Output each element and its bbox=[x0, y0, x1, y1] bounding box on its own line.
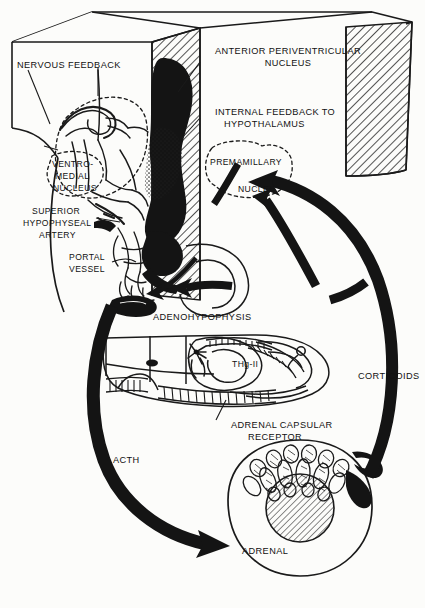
label-adrenal-capsular-receptor-line1: ADRENAL CAPSULAR bbox=[231, 420, 333, 430]
internal-feedback-arrow bbox=[252, 188, 366, 300]
label-acth: ACTH bbox=[113, 455, 140, 465]
figure-canvas: NERVOUS FEEDBACK ANTERIOR PERIVENTRICULA… bbox=[0, 0, 425, 608]
label-thg-ii: THg-II bbox=[232, 360, 258, 370]
label-adrenal: ADRENAL bbox=[242, 546, 288, 556]
label-ventromedial-nucleus-line3: NUCLEUS bbox=[53, 184, 97, 194]
label-nervous-feedback: NERVOUS FEEDBACK bbox=[17, 60, 121, 70]
diagram-svg bbox=[0, 0, 425, 608]
label-superior-hypophyseal-artery-line2: HYPOPHYSEAL bbox=[23, 219, 91, 229]
label-adrenal-capsular-receptor-line2: RECEPTOR bbox=[248, 432, 302, 442]
label-superior-hypophyseal-artery-line1: SUPERIOR bbox=[32, 207, 80, 217]
label-internal-feedback-line2: HYPOTHALAMUS bbox=[224, 119, 305, 129]
label-anterior-periventricular-nucleus-line2: NUCLEUS bbox=[212, 58, 364, 68]
label-portal-vessel-line1: PORTAL bbox=[69, 253, 105, 263]
label-anterior-periventricular-nucleus-line1: ANTERIOR PERIVENTRICULAR bbox=[212, 46, 364, 56]
label-nuclei: NUCLEI bbox=[238, 185, 272, 195]
premamillary-arrow bbox=[214, 164, 238, 204]
label-premamillary: PREMAMILLARY bbox=[210, 158, 282, 168]
artery-stub bbox=[94, 220, 116, 232]
label-internal-feedback-line1: INTERNAL FEEDBACK TO bbox=[215, 107, 335, 117]
label-corticoids: CORTICOIDS bbox=[358, 371, 420, 381]
label-adenohypophysis: ADENOHYPOPHYSIS bbox=[153, 312, 251, 322]
organ-nucleus bbox=[146, 360, 158, 367]
label-superior-hypophyseal-artery-line3: ARTERY bbox=[39, 231, 76, 241]
label-ventromedial-nucleus-line2: MEDIAL bbox=[55, 172, 89, 182]
label-portal-vessel-line2: VESSEL bbox=[69, 265, 105, 275]
label-ventromedial-nucleus-line1: VENTRO- bbox=[52, 160, 93, 170]
vascular-tracings bbox=[62, 70, 148, 220]
